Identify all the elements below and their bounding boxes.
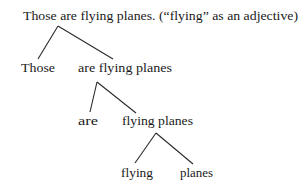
node-are: are xyxy=(78,113,98,128)
node-those: Those xyxy=(21,60,55,75)
branch-to-flying xyxy=(135,133,156,163)
branch-to-planes xyxy=(156,133,193,164)
node-flying: flying xyxy=(121,165,154,180)
node-are-flying-planes: are flying planes xyxy=(78,60,172,75)
branch-to-flying-planes xyxy=(97,82,136,113)
node-flying-planes: flying planes xyxy=(122,113,193,128)
branch-to-are xyxy=(90,82,97,112)
parse-tree-diagram: Those are flying planes. (“flying” as an… xyxy=(0,0,306,190)
branch-root-to-those xyxy=(38,26,58,59)
node-planes: planes xyxy=(180,165,213,180)
branch-root-to-predicate xyxy=(58,26,113,59)
root-node-label: Those are flying planes. (“flying” as an… xyxy=(23,8,298,23)
